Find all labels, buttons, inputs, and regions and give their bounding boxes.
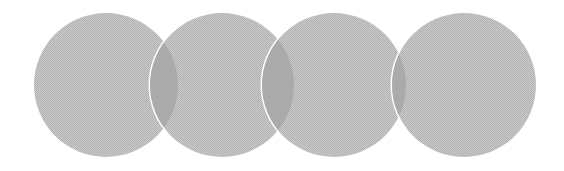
circle-shape: [392, 13, 536, 157]
circles-layer: [34, 12, 538, 159]
overlapping-circles-diagram: [0, 0, 564, 171]
circles-svg: [0, 0, 564, 171]
